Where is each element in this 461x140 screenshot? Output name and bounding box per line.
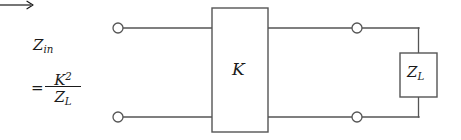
fraction-numerator: K2 [45,68,81,85]
numerator-base: K [54,71,65,89]
impedance-equation-fraction: K2 ZL [45,68,81,106]
input-impedance-subscript: in [43,44,53,55]
load-symbol: Z [407,63,417,81]
inverter-box-label: K [232,61,245,78]
terminal-input-bottom [113,112,123,122]
load-box-label: ZL [407,65,424,82]
input-impedance-label: Zin [33,38,53,55]
terminal-output-top [352,23,362,33]
input-impedance-symbol: Z [33,36,43,54]
terminal-output-bottom [352,112,362,122]
input-direction-arrow-icon [0,0,38,10]
numerator-exponent: 2 [65,71,71,82]
terminal-input-top [113,23,123,33]
fraction-denominator: ZL [45,88,81,106]
denominator-base: Z [54,88,64,106]
denominator-subscript: L [65,96,72,107]
circuit-diagram-figure: Zin = K2 ZL K ZL [0,0,461,140]
equation-equals-sign: = [31,81,44,96]
load-subscript: L [417,71,424,82]
